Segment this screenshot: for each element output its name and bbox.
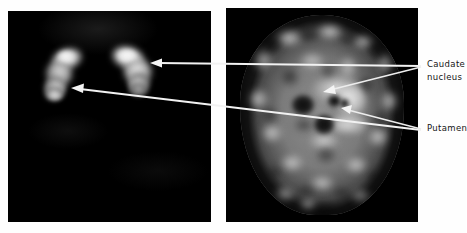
right-striatum-peak-hotspot	[118, 50, 136, 61]
left-striatum-tail-hotspot	[48, 91, 62, 100]
right-striatum-tail-lower	[130, 83, 147, 96]
label-caudate-nucleus: Caudate nucleus	[427, 58, 465, 84]
label-caudate-line-2: nucleus	[427, 71, 465, 84]
left-panel-striatal-scan	[8, 11, 211, 222]
brain-outline	[240, 15, 404, 215]
label-putamen-line-1: Putamen	[427, 122, 467, 135]
left-panel-background-noise	[8, 11, 211, 222]
left-striatum-peak-hotspot	[58, 51, 74, 62]
label-caudate-line-1: Caudate	[427, 58, 465, 71]
right-panel-brain-slice	[226, 8, 418, 222]
label-putamen: Putamen	[427, 122, 467, 135]
brain-edge-vignette	[240, 15, 404, 215]
